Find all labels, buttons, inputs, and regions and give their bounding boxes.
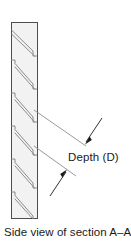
upper-leader-line: [34, 110, 86, 146]
side-view-diagram: Depth (D) Side view of section A–A: [0, 0, 131, 242]
slotted-plate: [12, 23, 39, 220]
depth-arrow-upper: [85, 118, 102, 145]
depth-arrow-lower: [50, 170, 67, 197]
diagram-canvas: [0, 0, 131, 242]
depth-annotation-label: Depth (D): [68, 152, 119, 164]
figure-caption: Side view of section A–A: [4, 227, 131, 239]
leader-lines: [34, 110, 86, 176]
